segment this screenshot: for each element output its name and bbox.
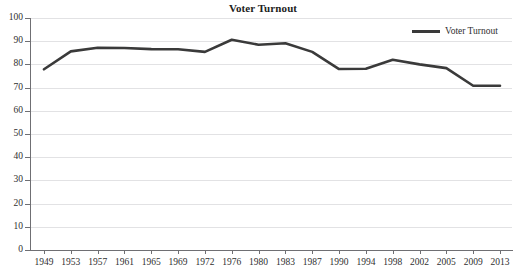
y-axis-tick-label: 100 xyxy=(0,13,23,22)
x-axis-tick xyxy=(205,250,206,254)
y-axis-tick-label: 50 xyxy=(0,129,23,138)
chart-legend: Voter Turnout xyxy=(412,26,498,36)
x-axis-tick xyxy=(366,250,367,254)
x-axis-line xyxy=(30,250,513,251)
y-axis-tick-label: 20 xyxy=(0,199,23,208)
legend-swatch-voter-turnout xyxy=(412,30,440,33)
y-axis-tick-label: 30 xyxy=(0,175,23,184)
gridline xyxy=(30,157,512,158)
legend-label-voter-turnout: Voter Turnout xyxy=(445,26,498,36)
y-axis-tick-label: 40 xyxy=(0,152,23,161)
x-axis-tick xyxy=(393,250,394,254)
x-axis-tick xyxy=(500,250,501,254)
y-axis-tick-label: 70 xyxy=(0,83,23,92)
x-axis-tick xyxy=(285,250,286,254)
gridline xyxy=(30,111,512,112)
y-axis-line xyxy=(30,18,31,251)
plot-area xyxy=(30,18,512,250)
y-axis-tick-label: 60 xyxy=(0,106,23,115)
chart-title: Voter Turnout xyxy=(0,1,526,15)
x-axis-tick xyxy=(44,250,45,254)
gridline xyxy=(30,227,512,228)
gridline xyxy=(30,88,512,89)
gridline xyxy=(30,41,512,42)
gridline xyxy=(30,204,512,205)
x-axis-tick-label: 2013 xyxy=(480,257,520,268)
x-axis-tick xyxy=(232,250,233,254)
gridline xyxy=(30,64,512,65)
x-axis-tick xyxy=(71,250,72,254)
gridline xyxy=(30,18,512,19)
x-axis-tick xyxy=(178,250,179,254)
x-axis-tick xyxy=(312,250,313,254)
x-axis-tick xyxy=(98,250,99,254)
chart-figure: Voter Turnout 0102030405060708090100 194… xyxy=(0,0,526,275)
x-axis-tick xyxy=(339,250,340,254)
x-axis-tick xyxy=(473,250,474,254)
x-axis-tick xyxy=(124,250,125,254)
y-axis-tick-label: 80 xyxy=(0,59,23,68)
y-axis-tick-label: 0 xyxy=(0,245,23,254)
x-axis-tick xyxy=(151,250,152,254)
y-axis-tick-label: 10 xyxy=(0,222,23,231)
gridline xyxy=(30,134,512,135)
x-axis-tick xyxy=(259,250,260,254)
x-axis-tick xyxy=(446,250,447,254)
gridline xyxy=(30,180,512,181)
y-axis-tick-labels: 0102030405060708090100 xyxy=(0,0,23,275)
y-axis-tick-label: 90 xyxy=(0,36,23,45)
x-axis-tick xyxy=(420,250,421,254)
